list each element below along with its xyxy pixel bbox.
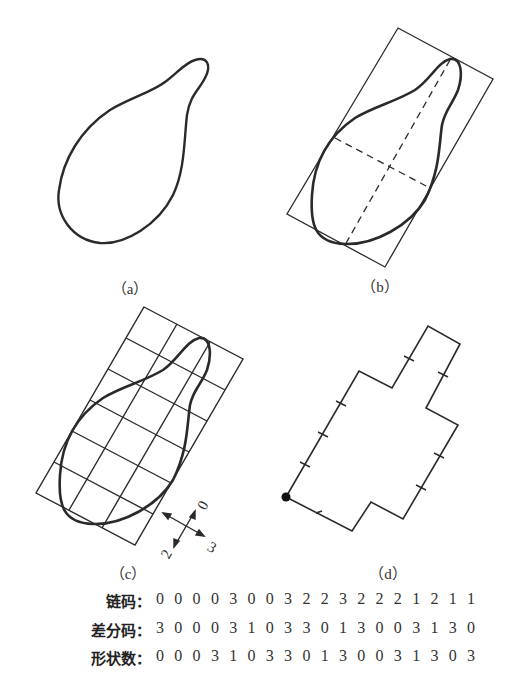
caption-b: （b） <box>350 275 410 296</box>
shape-number-digits: 000310330130031303 <box>156 647 485 665</box>
contour-c <box>60 338 210 524</box>
grid <box>36 307 243 545</box>
caption-c: （c） <box>98 562 158 583</box>
chain-code-digits: 000030032232221211 <box>156 590 485 608</box>
direction-label-0: 0 <box>194 498 212 512</box>
shape-number-label: 形状数： <box>91 647 151 668</box>
panel-b <box>287 28 493 267</box>
direction-label-2: 2 <box>158 547 176 561</box>
minor-axis <box>335 138 430 188</box>
shape-number-row: 形状数： 000310330130031303 <box>0 647 521 671</box>
figure-canvas: 0 2 3 <box>0 0 521 673</box>
start-point <box>282 493 291 502</box>
difference-code-row: 差分码： 300031033013003130 <box>0 619 521 643</box>
caption-d: （d） <box>358 562 418 583</box>
direction-label-3: 3 <box>205 539 219 557</box>
panel-c <box>36 307 243 547</box>
chain-code-row: 链码： 000030032232221211 <box>0 590 521 614</box>
difference-code-digits: 300031033013003130 <box>156 619 485 637</box>
direction-arrows <box>163 511 204 547</box>
chain-polygon <box>286 326 460 531</box>
major-axis <box>345 60 450 245</box>
caption-a: （a） <box>100 277 160 298</box>
chain-code-label: 链码： <box>106 590 151 611</box>
difference-code-label: 差分码： <box>91 619 151 640</box>
panel-d <box>282 326 461 531</box>
contour-b <box>312 59 461 244</box>
panel-a-contour <box>58 59 208 243</box>
